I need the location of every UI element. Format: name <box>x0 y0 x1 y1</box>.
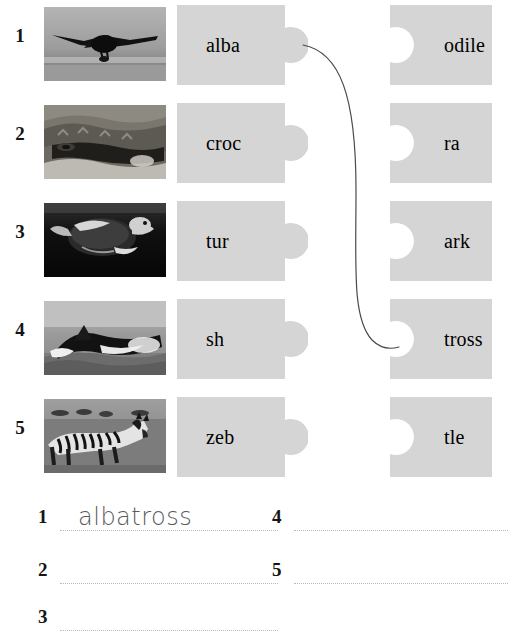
answer-row-2[interactable]: 2 <box>38 558 278 592</box>
answer-text-1: albatross <box>78 505 192 529</box>
answer-number-1: 1 <box>38 507 56 526</box>
row-number-4: 4 <box>6 320 34 339</box>
right-piece-4[interactable]: tross <box>390 299 492 379</box>
answer-number-2: 2 <box>38 560 56 579</box>
worksheet-page: 1 alba <box>0 0 508 639</box>
answer-line-5[interactable] <box>294 563 508 584</box>
row-number-5: 5 <box>6 418 34 437</box>
left-piece-1[interactable]: alba <box>177 5 308 85</box>
right-piece-3[interactable]: ark <box>390 201 492 281</box>
right-piece-5[interactable]: tle <box>390 397 492 477</box>
answer-line-3[interactable] <box>60 610 278 631</box>
answer-number-5: 5 <box>272 560 290 579</box>
answer-row-3[interactable]: 3 <box>38 605 278 639</box>
turtle-photo <box>44 203 166 277</box>
right-piece-2[interactable]: ra <box>390 103 492 183</box>
answer-row-4[interactable]: 4 <box>272 505 508 539</box>
answer-row-5[interactable]: 5 <box>272 558 508 592</box>
row-number-1: 1 <box>6 26 34 45</box>
crocodile-photo <box>44 105 166 179</box>
answer-line-4[interactable] <box>294 510 508 531</box>
answer-line-2[interactable] <box>60 563 278 584</box>
answer-row-1[interactable]: 1 albatross <box>38 505 278 539</box>
answer-number-4: 4 <box>272 507 290 526</box>
right-piece-1[interactable]: odile <box>390 5 492 85</box>
answer-number-3: 3 <box>38 607 56 626</box>
left-piece-2[interactable]: croc <box>177 103 308 183</box>
zebra-photo <box>44 399 166 473</box>
albatross-photo <box>44 7 166 81</box>
left-piece-4[interactable]: sh <box>177 299 308 379</box>
left-piece-3[interactable]: tur <box>177 201 308 281</box>
shark-photo <box>44 301 166 375</box>
row-number-3: 3 <box>6 222 34 241</box>
row-number-2: 2 <box>6 124 34 143</box>
left-piece-5[interactable]: zeb <box>177 397 308 477</box>
